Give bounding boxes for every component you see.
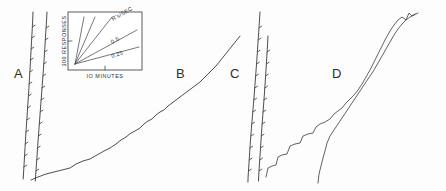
record-a-group: A <box>14 12 49 181</box>
record-c-trace-right <box>259 36 269 181</box>
record-a-trace-right <box>35 12 47 181</box>
record-label-b: B <box>176 66 185 81</box>
record-a-trace-left <box>23 12 33 179</box>
record-label-a: A <box>14 66 23 81</box>
figure-canvas: A B <box>0 0 446 191</box>
record-label-d: D <box>332 66 342 81</box>
record-d-group: D <box>266 13 418 183</box>
record-c-event-pips <box>249 26 270 171</box>
record-c-trace-left <box>248 12 260 182</box>
inset-y-axis-label: 300 RESPONSES <box>61 15 67 66</box>
record-c-group: C <box>230 12 270 182</box>
record-d-trace-steep <box>318 13 418 183</box>
rate-calibration-inset: R's/SEC 0.5 0.25 300 RESPONSES IO MINUTE… <box>61 5 142 79</box>
cumulative-record-figure: A B <box>0 0 446 191</box>
inset-x-axis-label: IO MINUTES <box>87 73 124 79</box>
record-label-c: C <box>230 66 240 81</box>
